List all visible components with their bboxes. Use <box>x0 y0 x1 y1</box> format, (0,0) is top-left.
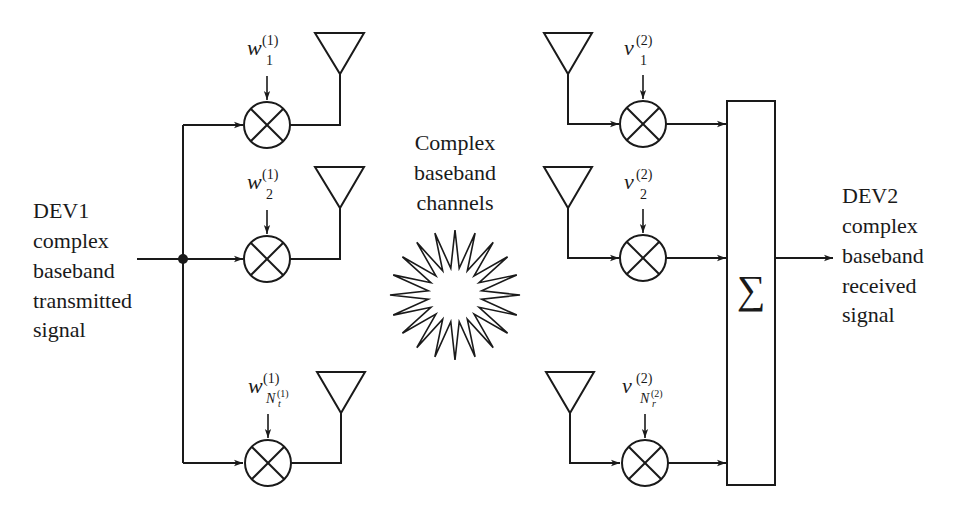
tx-label-line-1: DEV1 <box>33 198 89 223</box>
starburst-icon <box>390 230 520 360</box>
svg-text:N: N <box>639 391 650 406</box>
rx-label: DEV2 complex baseband received signal <box>842 183 924 327</box>
svg-text:(1): (1) <box>263 371 280 387</box>
channel: Complex baseband channels <box>390 130 520 360</box>
svg-text:t: t <box>278 398 281 409</box>
svg-text:r: r <box>652 398 656 409</box>
rx-weight-2: v <box>624 169 634 194</box>
multiplier-icon <box>620 235 666 281</box>
svg-text:1: 1 <box>266 53 273 68</box>
multiplier-icon <box>620 101 666 147</box>
svg-text:(2): (2) <box>636 167 653 183</box>
tx-branch-nt: w (1) N t (1) <box>245 371 365 486</box>
multiplier-icon <box>244 236 290 282</box>
rx-branch-1: v (2) 1 <box>544 33 726 147</box>
tx-branch-2: w (1) 2 <box>244 167 364 282</box>
sigma-icon: ∑ <box>737 267 766 312</box>
svg-text:1: 1 <box>640 53 647 68</box>
channel-label-line-3: channels <box>417 190 494 215</box>
rx-label-line-3: baseband <box>842 243 924 268</box>
tx-weight-1: w <box>247 35 262 60</box>
antenna-icon <box>544 167 592 208</box>
svg-text:(2): (2) <box>651 388 663 400</box>
svg-text:2: 2 <box>640 187 647 202</box>
rx-branch-2: v (2) 2 <box>544 167 726 281</box>
multiplier-icon <box>244 102 290 148</box>
channel-label-line-1: Complex <box>415 130 496 155</box>
tx-label: DEV1 complex baseband transmitted signal <box>33 198 132 342</box>
svg-text:2: 2 <box>266 187 273 202</box>
svg-text:(2): (2) <box>636 371 653 387</box>
svg-text:(2): (2) <box>636 33 653 49</box>
antenna-icon <box>315 167 364 208</box>
multiplier-icon <box>622 440 668 486</box>
rx-label-line-5: signal <box>842 302 895 327</box>
tx-label-line-4: transmitted <box>33 288 132 313</box>
tx-branch-1: w (1) 1 <box>244 33 364 148</box>
tx-weight-2: w <box>247 169 262 194</box>
multiplier-icon <box>245 440 291 486</box>
rx-label-line-2: complex <box>842 213 918 238</box>
rx-weight-1: v <box>624 35 634 60</box>
channel-label-line-2: baseband <box>414 160 496 185</box>
svg-text:(1): (1) <box>277 388 289 400</box>
rx-weight-nr: v <box>622 373 632 398</box>
tx-label-line-2: complex <box>33 228 109 253</box>
rx-branch-nr: v (2) N r (2) <box>546 371 726 486</box>
tx-splitter <box>137 125 243 463</box>
antenna-icon <box>544 33 592 74</box>
mimo-diagram: DEV1 complex baseband transmitted signal… <box>0 0 967 511</box>
svg-text:N: N <box>265 391 276 406</box>
antenna-icon <box>546 372 594 413</box>
tx-weight-nt: w <box>248 373 263 398</box>
antenna-icon <box>317 372 365 413</box>
svg-text:(1): (1) <box>262 33 279 49</box>
tx-label-line-3: baseband <box>33 258 115 283</box>
antenna-icon <box>315 33 364 74</box>
tx-label-line-5: signal <box>33 317 86 342</box>
combiner-block: ∑ <box>727 101 833 485</box>
rx-label-line-4: received <box>842 273 917 298</box>
svg-text:(1): (1) <box>262 167 279 183</box>
rx-label-line-1: DEV2 <box>842 183 898 208</box>
